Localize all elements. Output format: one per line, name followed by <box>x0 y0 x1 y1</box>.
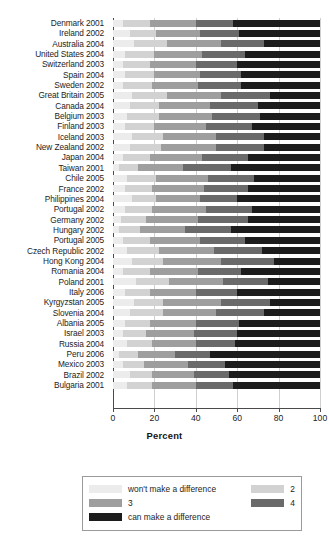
bar-segment-4 <box>198 82 241 89</box>
bar-segment-4 <box>206 123 252 130</box>
bar-row: Chile 2005 <box>0 173 329 183</box>
bar-segment-1 <box>113 216 121 223</box>
category-label: Chile 2005 <box>0 174 104 182</box>
bar-segment-4 <box>188 361 225 368</box>
bar-segment-5 <box>248 216 320 223</box>
bar-segment-2 <box>127 382 152 389</box>
legend-label-4: 4 <box>290 499 295 508</box>
stacked-bar <box>113 289 320 296</box>
bar-row: Switzerland 2003 <box>0 59 329 69</box>
bar-segment-1 <box>113 185 125 192</box>
bar-segment-4 <box>221 40 264 47</box>
bar-row: Poland 2001 <box>0 277 329 287</box>
bar-segment-4 <box>200 195 237 202</box>
bar-segment-3 <box>163 309 217 316</box>
bar-segment-2 <box>123 330 146 337</box>
bar-segment-3 <box>154 51 202 58</box>
bar-segment-4 <box>196 61 237 68</box>
bar-segment-3 <box>169 278 223 285</box>
bar-segment-1 <box>113 320 125 327</box>
bar-segment-2 <box>119 164 138 171</box>
stacked-bar <box>113 92 320 99</box>
bar-segment-2 <box>125 71 154 78</box>
bar-segment-4 <box>196 340 235 347</box>
bar-segment-1 <box>113 113 127 120</box>
stacked-bar <box>113 82 320 89</box>
legend-entry-2: 2 <box>251 485 295 494</box>
bar-row: Kyrgyzstan 2005 <box>0 297 329 307</box>
bar-segment-2 <box>132 195 157 202</box>
category-label: Finland 2003 <box>0 122 104 130</box>
bar-segment-5 <box>270 299 320 306</box>
bar-segment-1 <box>113 51 125 58</box>
stacked-bar <box>113 144 320 151</box>
bar-segment-5 <box>248 154 320 161</box>
bar-segment-5 <box>264 144 320 151</box>
bar-row: Hong Kong 2004 <box>0 256 329 266</box>
category-label: Israel 2003 <box>0 329 104 337</box>
bar-segment-5 <box>231 164 320 171</box>
stacked-bar <box>113 371 320 378</box>
legend-label-can-make-a-difference: can make a difference <box>128 513 210 522</box>
bar-segment-3 <box>150 237 200 244</box>
bar-segment-4 <box>212 113 260 120</box>
plot-area: 020406080100 Denmark 2001Ireland 2002Aus… <box>0 0 329 430</box>
bar-row: Israel 2003 <box>0 328 329 338</box>
category-label: Hong Kong 2004 <box>0 257 104 265</box>
bar-segment-4 <box>196 20 233 27</box>
bar-segment-2 <box>123 20 150 27</box>
tick-40 <box>196 408 197 412</box>
legend-swatch-2 <box>251 485 284 493</box>
bar-segment-1 <box>113 123 125 130</box>
stacked-bar <box>113 330 320 337</box>
bar-segment-5 <box>252 123 320 130</box>
stacked-bar <box>113 133 320 140</box>
category-label: Portugal 2005 <box>0 236 104 244</box>
bar-segment-2 <box>123 361 144 368</box>
bar-row: Portugal 2005 <box>0 235 329 245</box>
bar-segment-4 <box>216 133 264 140</box>
bar-segment-1 <box>113 237 123 244</box>
bar-segment-5 <box>241 268 320 275</box>
bar-segment-2 <box>127 175 156 182</box>
bar-segment-5 <box>237 61 320 68</box>
bar-segment-3 <box>152 206 206 213</box>
legend-row-2: 3 4 <box>89 496 295 510</box>
bar-segment-1 <box>113 40 134 47</box>
category-label: Canada 2004 <box>0 102 104 110</box>
bar-segment-3 <box>156 175 208 182</box>
category-label: Sweden 2002 <box>0 81 104 89</box>
bar-segment-2 <box>119 351 138 358</box>
bar-segment-5 <box>241 71 320 78</box>
stacked-bar <box>113 185 320 192</box>
bar-row: Russia 2004 <box>0 339 329 349</box>
category-label: Spain 2004 <box>0 71 104 79</box>
stacked-bar <box>113 320 320 327</box>
bar-segment-4 <box>202 51 245 58</box>
bar-segment-4 <box>198 216 248 223</box>
bar-segment-3 <box>146 216 198 223</box>
bar-row: France 2002 <box>0 184 329 194</box>
bar-segment-3 <box>150 61 196 68</box>
tick-label-100: 100 <box>313 414 327 423</box>
stacked-bar <box>113 382 320 389</box>
stacked-bar <box>113 351 320 358</box>
tick-label-80: 80 <box>274 414 284 423</box>
tick-label-60: 60 <box>232 414 242 423</box>
bar-segment-2 <box>130 144 161 151</box>
stacked-bar <box>113 164 320 171</box>
tick-0 <box>113 408 114 412</box>
bar-segment-2 <box>123 237 150 244</box>
stacked-bar <box>113 340 320 347</box>
bar-segment-5 <box>264 133 320 140</box>
bar-segment-4 <box>221 92 271 99</box>
bar-segment-1 <box>113 175 127 182</box>
stacked-bar <box>113 278 320 285</box>
bar-segment-2 <box>132 258 163 265</box>
bar-segment-4 <box>183 164 231 171</box>
legend-label-3: 3 <box>128 499 133 508</box>
bar-segment-2 <box>130 30 157 37</box>
bar-row: Japan 2004 <box>0 152 329 162</box>
bar-row: Belgium 2003 <box>0 111 329 121</box>
bar-segment-3 <box>152 185 204 192</box>
